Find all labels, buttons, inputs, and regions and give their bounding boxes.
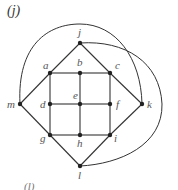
node-label-a: a: [43, 59, 49, 71]
node-label-c: c: [115, 59, 120, 71]
node-j: [78, 41, 82, 45]
node-l: [78, 164, 82, 168]
node-g: [48, 133, 52, 137]
node-e: [78, 102, 82, 106]
node-label-k: k: [147, 98, 153, 110]
node-label-f: f: [116, 98, 121, 110]
next-figure-label-partial: (l): [24, 180, 34, 190]
node-m: [18, 102, 22, 106]
node-label-d: d: [40, 98, 46, 110]
node-label-g: g: [40, 132, 46, 144]
node-k: [140, 102, 144, 106]
curved-edges: [20, 24, 162, 166]
node-label-l: l: [78, 169, 81, 181]
node-b: [78, 71, 82, 75]
node-label-e: e: [73, 89, 78, 101]
edge-j-c: [80, 43, 110, 73]
graph-diagram: jabcmdefkghil: [0, 0, 178, 190]
node-label-h: h: [77, 137, 83, 149]
node-label-m: m: [7, 98, 15, 110]
node-f: [108, 102, 112, 106]
edge-m-g: [20, 104, 50, 135]
edge-a-m: [20, 73, 50, 104]
node-i: [108, 133, 112, 137]
edge-j-a: [50, 43, 80, 73]
node-label-b: b: [77, 56, 83, 68]
edge-l-i: [80, 135, 110, 166]
edge-g-l: [50, 135, 80, 166]
node-label-i: i: [114, 132, 117, 144]
node-c: [108, 71, 112, 75]
edge-i-k: [110, 104, 142, 135]
node-a: [48, 71, 52, 75]
node-d: [48, 102, 52, 106]
edge-c-k: [110, 73, 142, 104]
node-label-j: j: [76, 26, 81, 38]
